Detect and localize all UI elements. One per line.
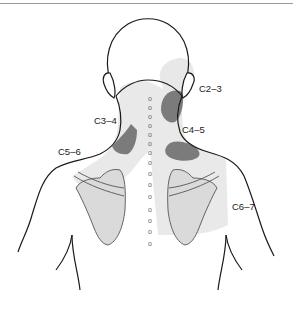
svg-text:o: o (148, 95, 152, 102)
label-c2-3: C2–3 (199, 83, 222, 94)
left-arm-inner (56, 235, 72, 270)
svg-text:o: o (148, 206, 152, 213)
label-c4-5: C4–5 (182, 124, 205, 135)
label-c5-6: C5–6 (58, 146, 81, 157)
left-ear (103, 73, 115, 98)
right-axilla (218, 235, 226, 290)
right-arm-inner (226, 235, 242, 270)
label-c6-7: C6–7 (232, 201, 255, 212)
svg-text:o: o (148, 193, 152, 200)
spine-markers: o o o o o o o o o o o o o o o (148, 95, 152, 247)
left-axilla (72, 235, 80, 290)
scapula-left (76, 169, 125, 245)
svg-text:o: o (148, 240, 152, 247)
svg-text:o: o (148, 159, 152, 166)
svg-text:o: o (148, 170, 152, 177)
svg-text:o: o (148, 140, 152, 147)
label-c3-4: C3–4 (94, 115, 117, 126)
svg-text:o: o (148, 181, 152, 188)
svg-text:o: o (148, 131, 152, 138)
svg-text:o: o (148, 149, 152, 156)
svg-text:o: o (148, 122, 152, 129)
svg-text:o: o (148, 228, 152, 235)
body-outline (18, 19, 274, 290)
svg-text:o: o (148, 113, 152, 120)
svg-text:o: o (148, 104, 152, 111)
svg-text:o: o (148, 217, 152, 224)
cervical-referral-diagram: o o o o o o o o o o o o o o o C2–3 C3–4 … (0, 0, 293, 310)
